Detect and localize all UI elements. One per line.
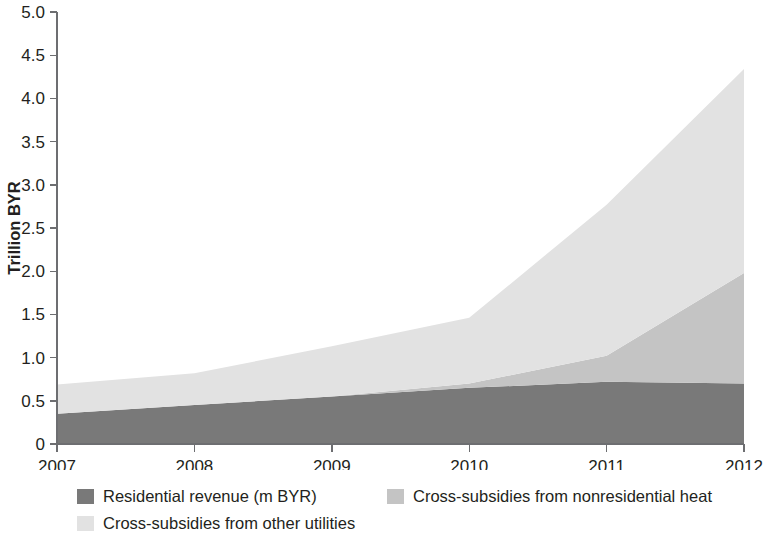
area-bands xyxy=(57,69,744,444)
y-tick-label: 0.5 xyxy=(21,392,45,411)
y-tick-label: 5.0 xyxy=(21,3,45,22)
y-tick-label: 3.0 xyxy=(21,176,45,195)
y-tick-label: 4.0 xyxy=(21,89,45,108)
x-axis-ticks: 200720082009201020112012 xyxy=(38,444,763,470)
legend-swatch-icon xyxy=(77,516,94,531)
legend-swatch-icon xyxy=(77,489,94,504)
y-tick-label: 0 xyxy=(36,435,45,454)
y-axis-ticks: 00.51.01.52.02.53.03.54.04.55.0 xyxy=(21,3,57,454)
x-tick-label: 2010 xyxy=(450,457,488,470)
x-tick-label: 2009 xyxy=(313,457,351,470)
x-tick-label: 2007 xyxy=(38,457,76,470)
y-axis-title: Trillion BYR xyxy=(5,181,23,275)
y-tick-label: 3.5 xyxy=(21,133,45,152)
x-tick-label: 2008 xyxy=(175,457,213,470)
y-tick-label: 1.0 xyxy=(21,349,45,368)
y-tick-label: 2.0 xyxy=(21,262,45,281)
x-tick-label: 2011 xyxy=(588,457,625,470)
stacked-area-chart: 00.51.01.52.02.53.03.54.04.55.0 20072008… xyxy=(0,0,767,470)
chart-legend: Residential revenue (m BYR) Cross-subsid… xyxy=(77,483,767,537)
chart-figure: 00.51.01.52.02.53.03.54.04.55.0 20072008… xyxy=(0,0,767,543)
y-tick-label: 4.5 xyxy=(21,46,45,65)
plot-area: 00.51.01.52.02.53.03.54.04.55.0 20072008… xyxy=(0,0,767,470)
legend-label: Cross-subsidies from nonresidential heat xyxy=(413,488,712,505)
legend-item-other-utilities[interactable]: Cross-subsidies from other utilities xyxy=(77,510,387,537)
legend-swatch-icon xyxy=(387,489,404,504)
legend-label: Residential revenue (m BYR) xyxy=(103,488,317,505)
x-tick-label: 2012 xyxy=(725,457,763,470)
legend-item-nonresidential-heat[interactable]: Cross-subsidies from nonresidential heat xyxy=(387,483,712,510)
y-tick-label: 2.5 xyxy=(21,219,45,238)
legend-label: Cross-subsidies from other utilities xyxy=(103,515,355,532)
legend-row-2: Cross-subsidies from other utilities xyxy=(77,510,767,537)
legend-row-1: Residential revenue (m BYR) Cross-subsid… xyxy=(77,483,767,510)
y-tick-label: 1.5 xyxy=(21,305,45,324)
legend-item-residential-revenue[interactable]: Residential revenue (m BYR) xyxy=(77,483,387,510)
